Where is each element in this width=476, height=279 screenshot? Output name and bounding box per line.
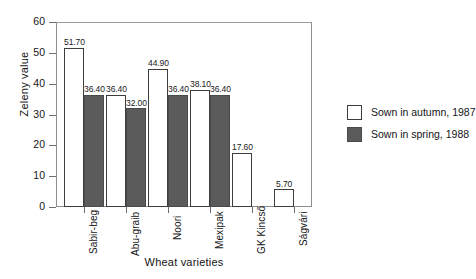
bar-value-abu-graib-spring: 32.00 xyxy=(126,98,147,108)
y-tick-mark-0 xyxy=(49,207,56,208)
x-label-mexipak: Mexipak xyxy=(214,211,225,249)
legend-label-autumn: Sown in autumn, 1987 xyxy=(371,106,476,118)
bar-noori-spring xyxy=(168,95,188,207)
bar-value-abu-graib-autumn: 36.40 xyxy=(106,84,127,94)
y-tick-label-40: 40 xyxy=(33,77,45,89)
bar-value-sabir-beg-autumn: 51.70 xyxy=(64,37,85,47)
x-label-sagvari: Ságvári xyxy=(298,211,309,246)
bar-noori-autumn xyxy=(148,69,168,208)
bar-sabir-beg-autumn xyxy=(64,48,84,208)
bar-abu-graib-autumn xyxy=(106,95,126,207)
bar-abu-graib-spring xyxy=(126,108,146,207)
bar-sagvari-autumn xyxy=(274,189,294,207)
legend-item-spring: Sown in spring, 1988 xyxy=(347,123,452,145)
bar-value-gk-kincso-autumn: 17.60 xyxy=(232,142,253,152)
y-tick-label-0: 0 xyxy=(39,200,45,212)
x-label-noori: Noori xyxy=(172,216,183,240)
x-axis-title: Wheat varieties xyxy=(56,256,312,268)
x-tick-mark-1 xyxy=(126,207,127,213)
bar-value-sagvari-autumn: 5.70 xyxy=(276,179,292,189)
bar-mexipak-spring xyxy=(210,95,230,207)
y-tick-mark-30 xyxy=(49,115,56,116)
y-tick-label-60: 60 xyxy=(33,15,45,27)
legend-label-spring: Sown in spring, 1988 xyxy=(371,128,469,140)
bar-mexipak-autumn xyxy=(190,90,210,208)
y-tick-mark-20 xyxy=(49,145,56,146)
y-tick-label-50: 50 xyxy=(33,46,45,58)
x-label-sabir-beg: Sabir-beg xyxy=(88,210,99,254)
bar-gk-kincso-autumn xyxy=(232,153,252,207)
bar-value-noori-spring: 36.40 xyxy=(168,84,189,94)
x-label-gk-kincso: GK Kincső xyxy=(256,206,267,254)
legend-swatch-autumn-icon xyxy=(347,105,362,120)
x-tick-mark-4 xyxy=(252,207,253,213)
x-label-abu-graib: Abu-graib xyxy=(130,212,141,256)
bar-value-mexipak-spring: 36.40 xyxy=(210,84,231,94)
bar-value-sabir-beg-spring: 36.40 xyxy=(84,84,105,94)
y-tick-mark-50 xyxy=(49,53,56,54)
legend-item-autumn: Sown in autumn, 1987 xyxy=(347,101,452,123)
y-tick-label-20: 20 xyxy=(33,138,45,150)
y-tick-mark-10 xyxy=(49,176,56,177)
x-tick-mark-2 xyxy=(168,207,169,213)
x-tick-mark-0 xyxy=(84,207,85,213)
bar-value-noori-autumn: 44.90 xyxy=(148,58,169,68)
bar-sabir-beg-spring xyxy=(84,95,104,207)
legend: Sown in autumn, 1987 Sown in spring, 198… xyxy=(347,101,452,145)
bar-value-mexipak-autumn: 38.10 xyxy=(190,79,211,89)
y-tick-label-10: 10 xyxy=(33,169,45,181)
y-tick-label-30: 30 xyxy=(33,108,45,120)
x-tick-mark-5 xyxy=(294,207,295,213)
y-tick-mark-40 xyxy=(49,84,56,85)
legend-swatch-spring-icon xyxy=(347,127,362,142)
y-axis-title: Zeleny value xyxy=(18,24,30,144)
y-tick-mark-60 xyxy=(49,22,56,23)
x-tick-mark-3 xyxy=(210,207,211,213)
